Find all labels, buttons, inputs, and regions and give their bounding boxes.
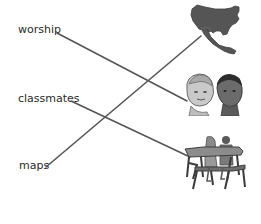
boy-face-icon (217, 74, 242, 116)
north-america-map-icon[interactable] (189, 3, 249, 55)
line-worship-to-children[interactable] (57, 33, 187, 101)
girl-face-icon (187, 74, 214, 116)
two-children-icon[interactable] (183, 70, 247, 116)
line-classmates-to-desk[interactable] (71, 101, 190, 157)
line-maps-to-map[interactable] (46, 36, 201, 167)
students-at-desk-icon[interactable] (183, 133, 253, 191)
